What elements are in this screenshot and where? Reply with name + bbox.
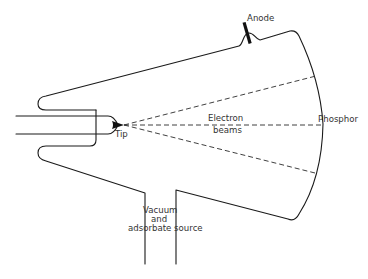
fem-tube-diagram: Anode Phosphor Tip Electron beams Vacuum…: [0, 0, 368, 279]
inner-tube: [16, 116, 118, 134]
label-phosphor: Phosphor: [318, 114, 359, 124]
tip-support-tube: [16, 116, 118, 134]
envelope-bottom-wall: [38, 110, 145, 264]
label-tip: Tip: [114, 129, 128, 139]
label-anode: Anode: [247, 13, 274, 23]
label-beams: beams: [213, 125, 242, 135]
tip-emitter: [112, 121, 124, 129]
label-electron: Electron: [208, 113, 243, 123]
